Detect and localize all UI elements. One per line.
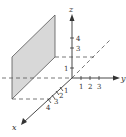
y-tick-3: 3	[97, 83, 101, 91]
3d-plane-diagram: z 1 3 4 y 1 2 3 x 1 2 3 4	[0, 0, 126, 137]
z-tick-3: 3	[76, 45, 80, 53]
y-tick-1: 1	[79, 83, 83, 91]
diagram-canvas: z 1 3 4 y 1 2 3 x 1 2 3 4	[0, 0, 126, 137]
z-tick-1: 1	[64, 65, 68, 73]
x-tick-1: 1	[64, 87, 68, 95]
z-tick-4: 4	[76, 35, 81, 43]
x-tick-3: 3	[54, 98, 58, 106]
x-axis	[24, 78, 72, 122]
x-tick-4: 4	[46, 104, 51, 112]
y-axis-label: y	[120, 74, 126, 83]
x-axis-arrow-icon	[21, 118, 27, 125]
y-axis-arrow-icon	[113, 76, 120, 81]
z-axis-label: z	[68, 5, 74, 14]
y-tick-2: 2	[88, 83, 92, 91]
x-tick-2: 2	[59, 92, 63, 100]
x-axis-label: x	[12, 123, 17, 132]
shaded-plane	[12, 15, 55, 99]
z-axis-arrow-icon	[70, 14, 75, 21]
